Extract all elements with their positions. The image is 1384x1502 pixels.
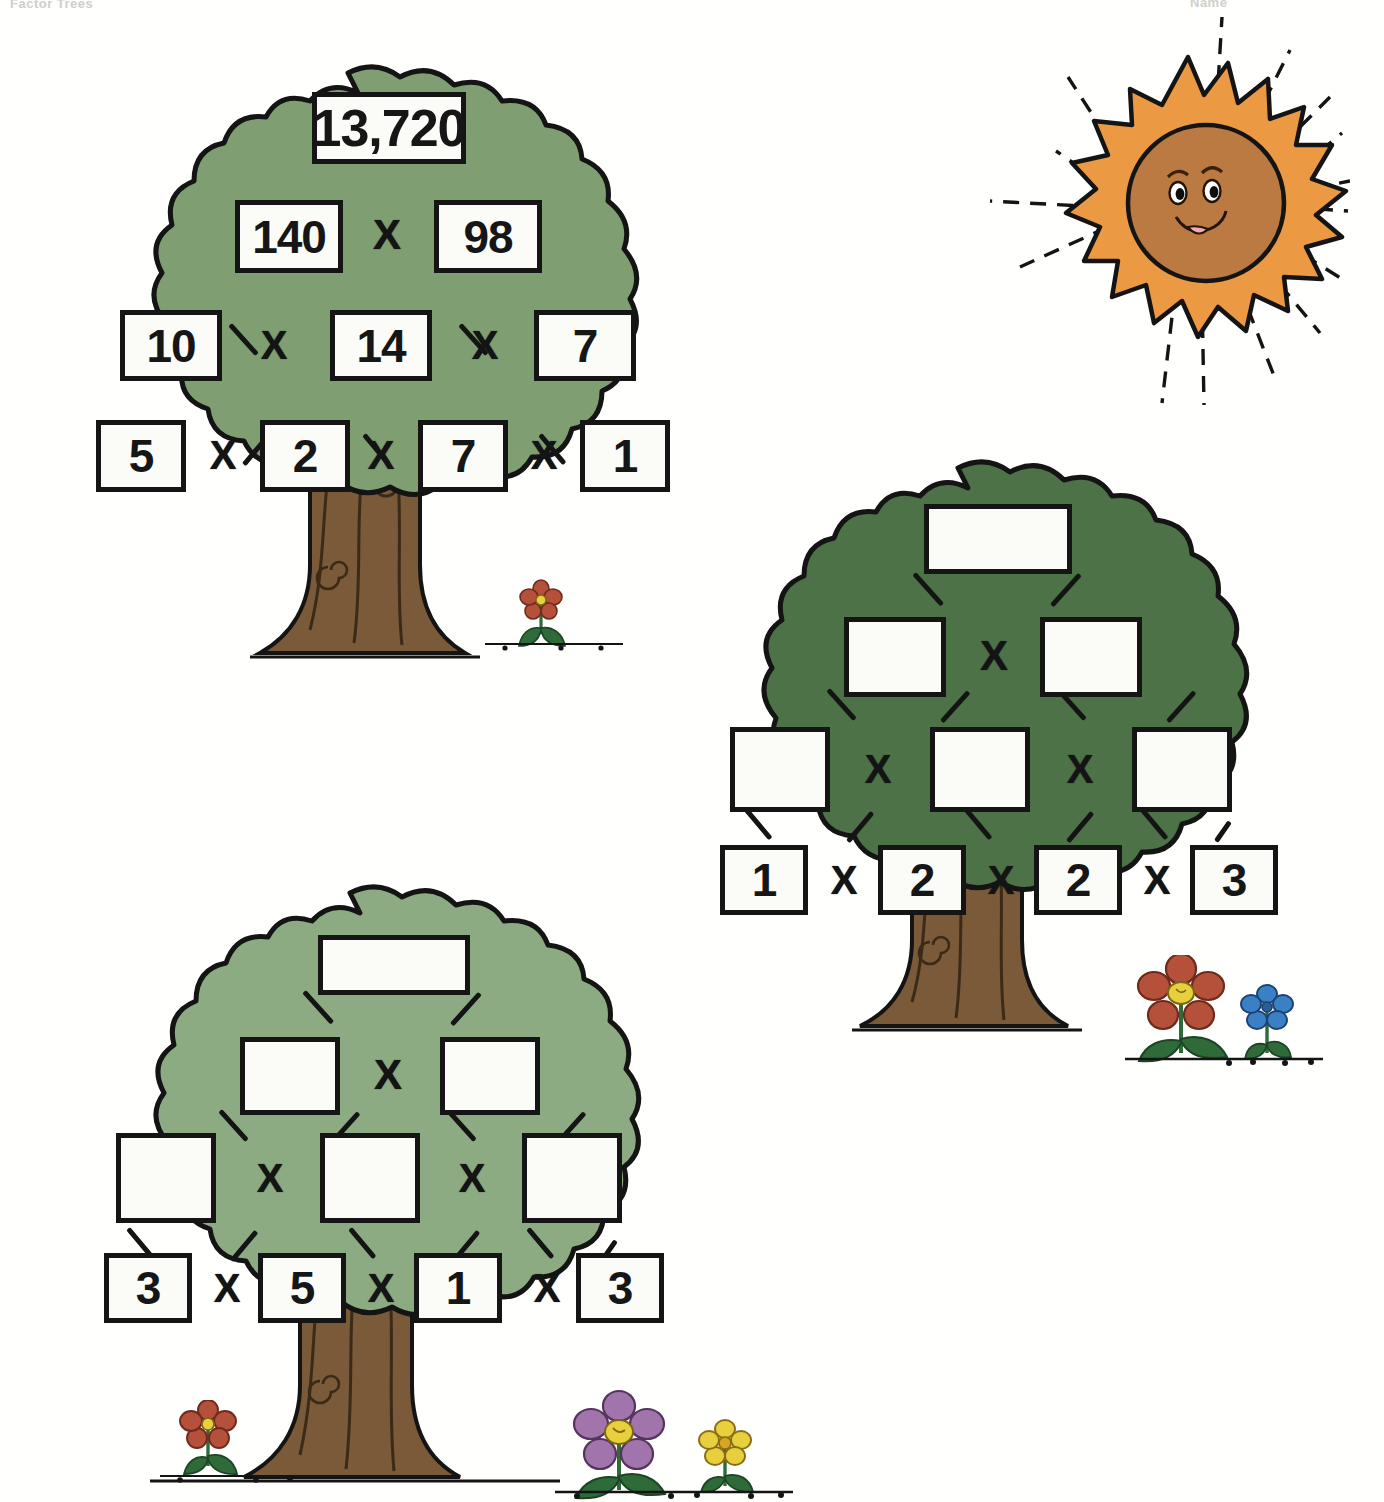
- operator-multiply: X: [982, 852, 1020, 908]
- flower-blue-small: [1241, 985, 1293, 1059]
- factor-box[interactable]: 7: [534, 310, 636, 381]
- factor-box[interactable]: 2: [878, 845, 966, 915]
- operator-multiply: X: [204, 427, 242, 483]
- answer-box[interactable]: [440, 1037, 540, 1115]
- factor-box[interactable]: 3: [104, 1253, 192, 1323]
- factor-box[interactable]: 1: [414, 1253, 502, 1323]
- factor-box[interactable]: 98: [434, 200, 542, 273]
- operator-multiply: X: [365, 205, 409, 265]
- factor-box[interactable]: 5: [258, 1253, 346, 1323]
- operator-multiply: X: [825, 852, 863, 908]
- factor-box[interactable]: 3: [1190, 845, 1278, 915]
- answer-box[interactable]: [730, 727, 830, 812]
- operator-multiply: X: [1060, 740, 1100, 798]
- answer-box[interactable]: [240, 1037, 340, 1115]
- operator-multiply: X: [208, 1260, 246, 1316]
- factor-box[interactable]: 14: [330, 310, 432, 381]
- operator-multiply: X: [254, 317, 294, 373]
- flower-red-small: [160, 1400, 310, 1500]
- flower-yellow-small: [699, 1420, 753, 1492]
- factor-box[interactable]: 10: [120, 310, 222, 381]
- answer-box[interactable]: [522, 1133, 622, 1223]
- worksheet-page: Factor Trees Name: [0, 0, 1384, 1502]
- operator-multiply: X: [1138, 852, 1176, 908]
- answer-box[interactable]: [924, 504, 1072, 574]
- flower-red-large: [1138, 955, 1227, 1061]
- operator-multiply: X: [362, 427, 400, 483]
- factor-box[interactable]: 2: [260, 420, 350, 492]
- answer-box[interactable]: [930, 727, 1030, 812]
- answer-box[interactable]: [1132, 727, 1232, 812]
- answer-box[interactable]: [116, 1133, 216, 1223]
- flower-group-bottom: [555, 1380, 795, 1502]
- flower-group-right: [1125, 955, 1325, 1070]
- operator-multiply: X: [465, 317, 505, 373]
- header-title-cropped: Factor Trees: [10, 0, 93, 8]
- operator-multiply: X: [366, 1045, 410, 1105]
- sun-artwork: [990, 15, 1350, 405]
- factor-box[interactable]: 140: [235, 200, 343, 273]
- sun-illustration: [990, 15, 1350, 405]
- operator-multiply: X: [250, 1149, 290, 1207]
- header-name-field-cropped: Name: [1190, 0, 1227, 7]
- operator-multiply: X: [972, 626, 1016, 686]
- operator-multiply: X: [452, 1149, 492, 1207]
- answer-box[interactable]: [318, 935, 470, 995]
- factor-box[interactable]: 3: [576, 1253, 664, 1323]
- answer-box[interactable]: [1040, 617, 1142, 697]
- flower-red-tiny: [485, 578, 625, 670]
- factor-box[interactable]: 5: [96, 420, 186, 492]
- operator-multiply: X: [525, 427, 563, 483]
- factor-box[interactable]: 2: [1034, 845, 1122, 915]
- answer-box[interactable]: [320, 1133, 420, 1223]
- factor-box[interactable]: 7: [418, 420, 508, 492]
- operator-multiply: X: [858, 740, 898, 798]
- sun-face-disc: [1128, 125, 1284, 281]
- factor-box[interactable]: 13,720: [312, 92, 466, 164]
- answer-box[interactable]: [844, 617, 946, 697]
- operator-multiply: X: [528, 1260, 566, 1316]
- flower-purple-large: [574, 1391, 665, 1498]
- operator-multiply: X: [362, 1260, 400, 1316]
